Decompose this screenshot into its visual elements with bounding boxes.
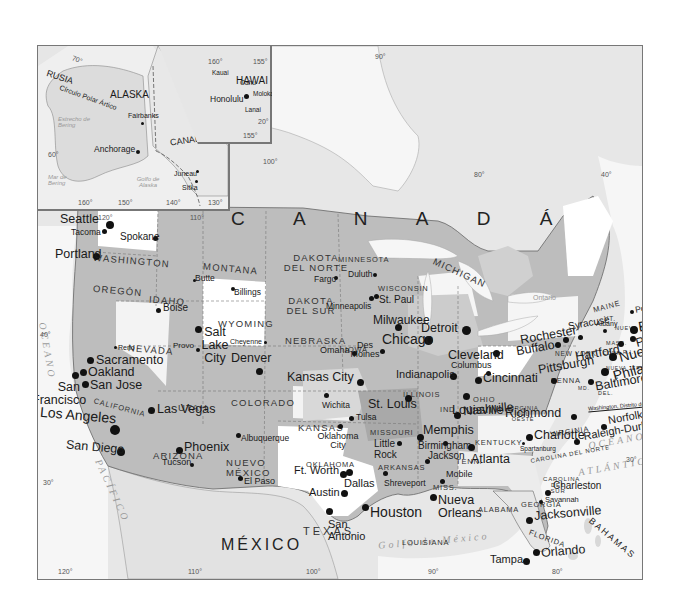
reno-label: Reno — [118, 344, 135, 351]
fairbanks-label: Fairbanks — [128, 112, 159, 119]
richmond-label: Richmond — [505, 407, 561, 420]
tulsa-dot — [349, 416, 354, 421]
kansas-city-label: Kansas City — [287, 371, 354, 384]
lon-80-bottom: 80° — [552, 568, 563, 575]
boise-dot — [156, 308, 161, 313]
mexico-label: MÉXICO — [221, 537, 302, 553]
hawaii-lon-155-bottom: 155° — [243, 132, 257, 139]
houston-dot — [362, 504, 369, 511]
tulsa-label: Tulsa — [356, 413, 376, 422]
mobile-label: Mobile — [446, 470, 473, 479]
state-kentucky: KENTUCKY — [475, 439, 522, 447]
kauai-label: Kauai — [212, 70, 229, 77]
inset-lon-140: 140° — [166, 199, 180, 206]
richmond-dot — [571, 414, 577, 420]
anchorage-label: Anchorage — [94, 145, 135, 154]
dallas-label: Dallas — [344, 478, 375, 489]
las-vegas-label: Las Vegas — [157, 403, 215, 416]
seattle-label: Seattle — [60, 213, 99, 226]
savannah-label: Savannah — [545, 496, 579, 504]
shreveport-dot — [383, 471, 388, 476]
lon-90-top: 90° — [375, 53, 386, 60]
san-jose-dot — [82, 381, 89, 388]
salt-lake-city-label: Salt Lake City — [201, 326, 229, 365]
nashville-dot — [454, 412, 461, 419]
lon-110-top: 110° — [190, 214, 204, 221]
kansas-city-dot — [357, 379, 364, 386]
sitka-label: Sitka — [182, 184, 198, 191]
shreveport-label: Shreveport — [384, 479, 426, 488]
indianapolis-label: Indianapolis — [396, 369, 455, 380]
oakland-dot — [80, 369, 87, 376]
philadelphia-dot — [601, 368, 609, 376]
honolulu-label: Honolulu — [210, 95, 244, 104]
map-frame: RUSIA Círculo Polar Ártico ALASKA CANADÁ… — [37, 45, 643, 580]
new-orleans-label: Nueva Orleans — [438, 494, 483, 520]
savannah-dot — [539, 500, 543, 504]
st-louis-label: St. Louis — [368, 398, 417, 411]
lon-100-top: 100° — [263, 158, 277, 165]
spartanburg-label: Spartanburg — [520, 446, 556, 453]
oklahoma-city-dot — [338, 424, 343, 429]
state-minnesota: MINNESOTA — [338, 256, 389, 264]
lat-30-left: 30° — [43, 479, 54, 486]
cincinnati-dot — [475, 377, 482, 384]
butte-label: Butte — [195, 274, 215, 283]
juneau-label: Juneau — [174, 170, 197, 177]
inset-lon-130: 130° — [208, 199, 222, 206]
omaha-label: Omaha — [320, 346, 350, 355]
bering-strait-label: Estrecho de Bering — [58, 116, 94, 128]
bering-sea-label: Mar de Bering — [48, 174, 78, 186]
state-louisiana: LOUISIANA — [402, 539, 449, 547]
state-missouri: MISSOURI — [370, 429, 414, 437]
lat-40-right: 40° — [601, 171, 612, 178]
fairbanks-dot — [141, 122, 144, 125]
spokane-label: Spokane — [120, 232, 159, 242]
raleigh-durham-dot — [574, 439, 580, 445]
state-mississippi: MISS. — [433, 484, 457, 492]
columbus-label: Columbus — [451, 361, 492, 370]
state-colorado: COLORADO — [231, 398, 295, 408]
anchorage-dot — [136, 150, 140, 154]
dallas-dot — [346, 469, 353, 476]
orlando-dot — [533, 549, 540, 556]
las-vegas-dot — [148, 407, 155, 414]
lon-100-bottom: 100° — [306, 568, 320, 575]
atlanta-dot — [468, 444, 475, 451]
buffalo-dot — [555, 342, 561, 348]
los-angeles-dot — [110, 425, 120, 435]
duluth-label: Duluth — [348, 270, 373, 279]
austin-label: Austin — [309, 487, 340, 498]
atlanta-label: Atlanta — [471, 453, 510, 466]
reno-dot — [114, 346, 117, 349]
baltimore-dot — [588, 379, 594, 385]
inset-alaska-label: ALASKA — [110, 90, 149, 100]
ontario-label: Ontario — [533, 294, 556, 301]
inset-lat-60: 60° — [48, 151, 59, 158]
lat-40-left: 40° — [40, 331, 51, 338]
phoenix-dot — [176, 447, 183, 454]
sacramento-dot — [87, 357, 94, 364]
houston-label: Houston — [370, 505, 422, 519]
portland-label: Portland — [55, 248, 102, 261]
memphis-label: Memphis — [423, 424, 474, 437]
charlotte-dot — [526, 434, 533, 441]
tacoma-dot — [102, 229, 107, 234]
lon-90-bottom: 90° — [428, 568, 439, 575]
tampa-label: Tampa — [490, 554, 523, 565]
oklahoma-city-label: Oklahoma City — [316, 432, 360, 450]
canada-label: C A N A D Á — [231, 209, 574, 228]
san-jose-label: San Jose — [90, 379, 142, 392]
wichita-dot — [324, 393, 329, 398]
el-paso-dot — [238, 476, 243, 481]
inset-lon-160: 160° — [78, 199, 92, 206]
honolulu-dot — [244, 94, 249, 99]
cheyenne-label: Cheyenne — [230, 338, 262, 345]
cincinnati-label: Cincinnati — [483, 372, 538, 385]
el-paso-label: El Paso — [244, 477, 275, 486]
san-antonio-dot — [326, 508, 333, 515]
oakland-label: Oakland — [88, 366, 135, 379]
jackson-label: Jackson — [428, 451, 465, 461]
boston-dot — [630, 326, 638, 334]
louisville-dot — [463, 393, 470, 400]
